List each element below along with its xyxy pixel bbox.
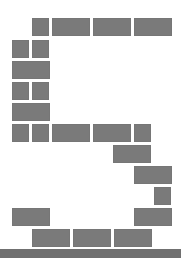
brick xyxy=(12,124,29,142)
brick xyxy=(12,103,50,121)
brick xyxy=(32,229,70,247)
brick xyxy=(12,61,50,79)
brick xyxy=(52,124,90,142)
brick xyxy=(12,82,29,100)
brick xyxy=(134,124,151,142)
brick xyxy=(32,124,49,142)
brick xyxy=(93,18,131,36)
brick xyxy=(134,208,172,226)
brick xyxy=(52,18,90,36)
brick xyxy=(12,208,50,226)
brick xyxy=(113,145,151,163)
brick xyxy=(32,18,49,36)
brick xyxy=(154,187,171,205)
brick xyxy=(134,18,172,36)
brick-digit-canvas xyxy=(0,0,181,258)
brick xyxy=(32,82,49,100)
brick xyxy=(134,166,172,184)
brick xyxy=(12,40,29,58)
brick xyxy=(32,40,49,58)
ground-bar xyxy=(0,249,181,258)
brick xyxy=(93,124,131,142)
brick xyxy=(73,229,111,247)
brick xyxy=(114,229,152,247)
